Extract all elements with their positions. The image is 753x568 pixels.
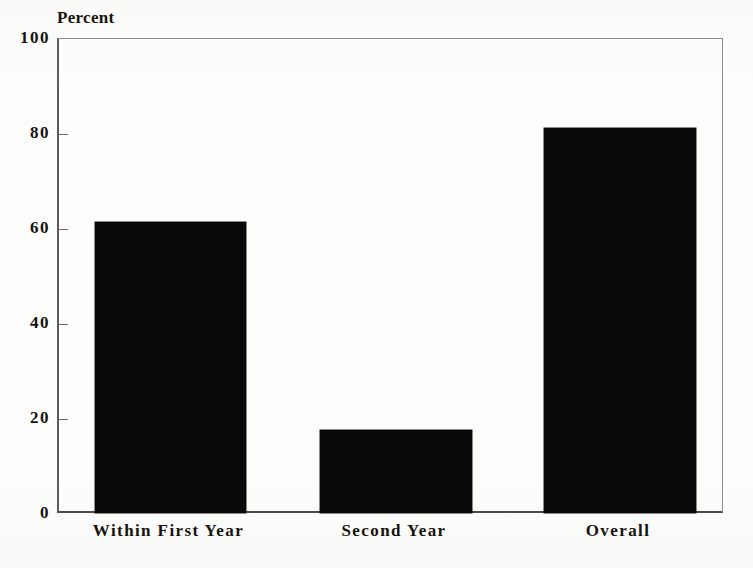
y-tick-mark-80 — [59, 134, 68, 135]
y-tick-mark-20 — [59, 419, 68, 420]
y-axis-tick-labels: 020406080100 — [0, 0, 50, 568]
y-tick-label-40: 40 — [30, 313, 50, 333]
bar-1 — [320, 430, 472, 513]
y-tick-label-0: 0 — [40, 503, 50, 523]
plot-area — [57, 38, 723, 513]
y-tick-label-80: 80 — [30, 123, 50, 143]
x-category-label-1: Second Year — [342, 521, 447, 541]
y-tick-mark-60 — [59, 229, 68, 230]
y-tick-label-60: 60 — [30, 218, 50, 238]
chart-page: Percent 020406080100 Within First YearSe… — [0, 0, 753, 568]
y-axis-title: Percent — [57, 8, 114, 28]
x-category-label-0: Within First Year — [93, 521, 244, 541]
y-tick-mark-40 — [59, 324, 68, 325]
x-category-label-2: Overall — [586, 521, 651, 541]
bar-0 — [95, 222, 246, 513]
y-tick-label-100: 100 — [20, 28, 50, 48]
y-tick-label-20: 20 — [30, 408, 50, 428]
bar-2 — [544, 128, 696, 513]
